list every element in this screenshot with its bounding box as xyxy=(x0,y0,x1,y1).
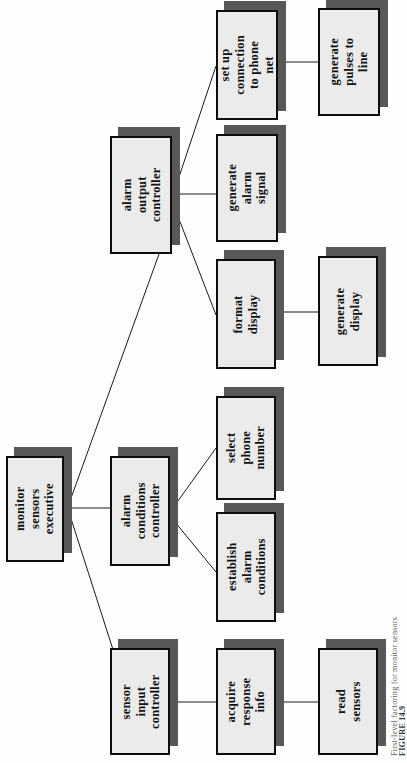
node-acquire-response-info[interactable]: acquire response info xyxy=(216,648,276,755)
node-label: set up connection to phone net xyxy=(218,35,276,95)
box-face: sensor input controller xyxy=(110,648,170,755)
box-face: read sensors xyxy=(318,648,378,755)
node-monitor-sensors-executive[interactable]: monitor sensors executive xyxy=(6,456,64,562)
node-label: read sensors xyxy=(333,681,362,721)
node-set-up-connection-to-phone-net[interactable]: set up connection to phone net xyxy=(216,10,278,120)
node-alarm-output-controller[interactable]: alarm output controller xyxy=(110,136,172,254)
box-face: set up connection to phone net xyxy=(216,10,278,120)
node-label: generate display xyxy=(333,287,362,334)
box-face: select phone number xyxy=(216,396,276,500)
node-label: alarm output controller xyxy=(119,168,163,223)
figure-caption-text-wrap: First-level factoring for monitor sensor… xyxy=(390,617,399,756)
box-face: generate display xyxy=(318,256,378,366)
box-face: establish alarm conditions xyxy=(216,512,276,622)
node-generate-pulses-to-line[interactable]: generate pulses to line xyxy=(318,8,380,116)
node-generate-alarm-signal[interactable]: generate alarm signal xyxy=(216,134,278,242)
figure-caption-text: First-level factoring for monitor sensor… xyxy=(390,617,399,756)
box-face: generate alarm signal xyxy=(216,134,278,242)
node-label: establish alarm conditions xyxy=(224,539,268,596)
node-label: select phone number xyxy=(224,426,268,470)
node-label: acquire response info xyxy=(224,678,268,726)
node-alarm-conditions-controller[interactable]: alarm conditions controller xyxy=(110,456,170,566)
box-face: format display xyxy=(216,259,276,369)
node-select-phone-number[interactable]: select phone number xyxy=(216,396,276,500)
node-label: alarm conditions controller xyxy=(118,483,162,540)
box-face: monitor sensors executive xyxy=(6,456,64,562)
node-label: monitor sensors executive xyxy=(13,483,57,534)
node-format-display[interactable]: format display xyxy=(216,259,276,369)
node-read-sensors[interactable]: read sensors xyxy=(318,648,378,755)
figure-caption-number: FIGURE 14.9 xyxy=(398,706,407,756)
box-face: acquire response info xyxy=(216,648,276,755)
box-face: generate pulses to line xyxy=(318,8,380,116)
node-establish-alarm-conditions[interactable]: establish alarm conditions xyxy=(216,512,276,622)
node-label: generate pulses to line xyxy=(327,33,371,91)
box-face: alarm conditions controller xyxy=(110,456,170,566)
node-label: generate alarm signal xyxy=(225,164,269,211)
node-label: sensor input controller xyxy=(118,674,162,729)
node-label: format display xyxy=(232,294,261,334)
figure-caption-label: FIGURE 14.9 xyxy=(398,706,407,756)
node-generate-display[interactable]: generate display xyxy=(318,256,378,366)
box-face: alarm output controller xyxy=(110,136,172,254)
node-sensor-input-controller[interactable]: sensor input controller xyxy=(110,648,170,755)
